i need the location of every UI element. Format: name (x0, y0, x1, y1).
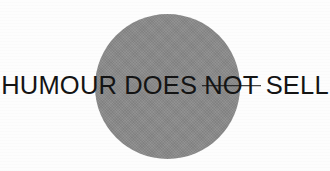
headline-word-not-struck: NOT (204, 73, 258, 99)
poster-canvas: HUMOUR DOES NOT SELL (0, 0, 330, 171)
headline-word-humour: HUMOUR (1, 73, 117, 99)
headline-word-sell: SELL (266, 73, 329, 99)
strikethrough-line (202, 85, 260, 87)
headline-text: HUMOUR DOES NOT SELL (0, 0, 330, 171)
headline-word-does: DOES (124, 73, 197, 99)
